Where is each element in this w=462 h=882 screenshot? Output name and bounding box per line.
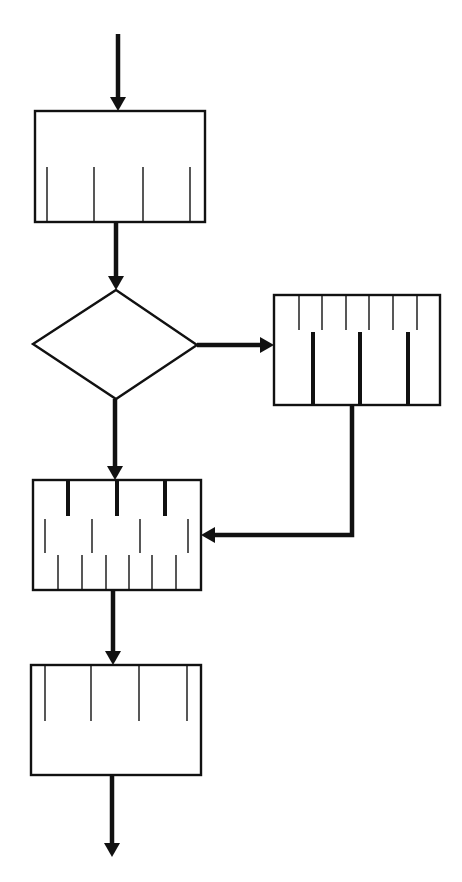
- process-1-node: [35, 111, 205, 222]
- arrowhead-icon: [104, 843, 120, 857]
- flowchart-canvas: [0, 0, 462, 882]
- nodes-layer: [31, 111, 440, 775]
- process-1-box: [35, 111, 205, 222]
- arrowhead-icon: [201, 527, 215, 543]
- process-merge-node: [33, 480, 201, 590]
- merge-to-final: [105, 590, 121, 665]
- decision-to-branch: [197, 337, 274, 353]
- arrowhead-icon: [110, 97, 126, 111]
- arrow-line: [213, 405, 352, 535]
- process-branch-node: [274, 295, 440, 405]
- entry-arrow: [110, 34, 126, 111]
- exit-arrow: [104, 775, 120, 857]
- decision-to-merge: [107, 399, 123, 480]
- arrowhead-icon: [108, 276, 124, 290]
- decision-node: [33, 290, 197, 399]
- arrowhead-icon: [260, 337, 274, 353]
- process1-to-decision: [108, 222, 124, 290]
- process-final-box: [31, 665, 201, 775]
- branch-to-merge: [201, 405, 352, 543]
- decision-diamond: [33, 290, 197, 399]
- process-final-node: [31, 665, 201, 775]
- arrowhead-icon: [107, 466, 123, 480]
- arrowhead-icon: [105, 651, 121, 665]
